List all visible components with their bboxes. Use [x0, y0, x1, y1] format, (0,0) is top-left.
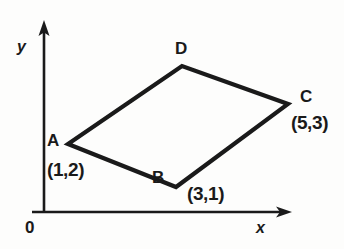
- parallelogram-shape: [68, 66, 288, 187]
- origin-label: 0: [25, 219, 34, 236]
- vertex-label-a: A: [47, 132, 59, 149]
- vertex-coord-c: (5,3): [291, 113, 328, 132]
- vertex-label-c: C: [300, 88, 312, 105]
- x-axis-label: x: [256, 220, 265, 236]
- vertex-coord-b: (3,1): [187, 184, 224, 203]
- vertex-label-b: B: [152, 169, 164, 186]
- y-axis-label: y: [17, 39, 26, 55]
- geometry-figure: y x 0 A B C D (1,2) (3,1) (5,3): [0, 0, 344, 249]
- vertex-coord-a: (1,2): [47, 160, 84, 179]
- vertex-label-d: D: [175, 40, 187, 57]
